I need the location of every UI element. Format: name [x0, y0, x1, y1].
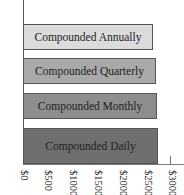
- x-tick-label: $1000: [68, 170, 79, 195]
- x-axis-line: [23, 164, 184, 165]
- x-tick-label: $3000: [167, 170, 178, 195]
- bar-compounded-annually: Compounded Annually: [23, 24, 153, 50]
- x-tick-3000: [170, 156, 171, 164]
- bar-compounded-daily: Compounded Daily: [23, 128, 158, 164]
- x-tick-label: $0: [19, 170, 30, 181]
- bar-compounded-monthly: Compounded Monthly: [23, 93, 157, 119]
- x-tick-label: $1500: [93, 170, 104, 195]
- x-tick-label: $500: [43, 170, 54, 191]
- x-tick-label: $2500: [143, 170, 154, 195]
- x-tick-label: $2000: [118, 170, 129, 195]
- bar-compounded-quarterly: Compounded Quarterly: [23, 58, 156, 84]
